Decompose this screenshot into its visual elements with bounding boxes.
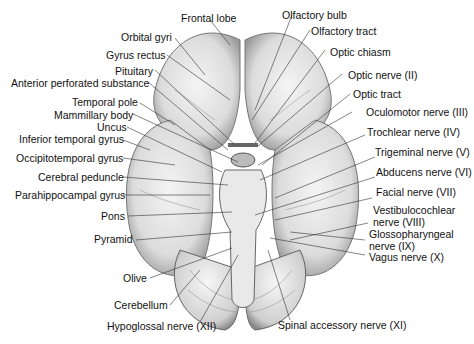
label-pyramid: Pyramid — [94, 234, 133, 245]
label-oculomotor-nerve: Oculomotor nerve (III) — [366, 107, 468, 118]
brain-inferior-view-diagram: Frontal lobe Orbital gyri Gyrus rectus P… — [0, 0, 474, 344]
label-vagus-nerve: Vagus nerve (X) — [369, 252, 444, 263]
label-optic-nerve: Optic nerve (II) — [348, 70, 417, 81]
label-facial-nerve: Facial nerve (VII) — [376, 187, 456, 198]
label-abducens-nerve: Abducens nerve (VI) — [376, 167, 472, 178]
label-pituitary: Pituitary — [115, 66, 153, 77]
label-gyrus-rectus: Gyrus rectus — [106, 50, 166, 61]
label-frontal-lobe: Frontal lobe — [181, 13, 236, 24]
label-trigeminal-nerve: Trigeminal nerve (V) — [375, 147, 470, 158]
label-olive: Olive — [123, 273, 147, 284]
label-olfactory-bulb: Olfactory bulb — [282, 10, 347, 21]
label-hypoglossal-nerve: Hypoglossal nerve (XII) — [107, 321, 216, 332]
label-parahippocampal-gyrus: Parahippocampal gyrus — [15, 190, 125, 201]
label-cerebellum: Cerebellum — [114, 300, 168, 311]
label-vestibulocochlear-nerve-line2: nerve (VIII) — [373, 217, 425, 228]
label-pons: Pons — [101, 211, 125, 222]
label-uncus: Uncus — [97, 122, 127, 133]
label-temporal-pole: Temporal pole — [72, 97, 138, 108]
label-inferior-temporal-gyrus: Inferior temporal gyrus — [19, 134, 124, 145]
label-trochlear-nerve: Trochlear nerve (IV) — [367, 127, 460, 138]
label-olfactory-tract: Olfactory tract — [311, 26, 376, 37]
label-vestibulocochlear-nerve: Vestibulocochlear — [373, 205, 455, 216]
label-spinal-accessory-nerve: Spinal accessory nerve (XI) — [278, 320, 406, 331]
label-glossopharyngeal-nerve: Glossopharyngeal — [369, 229, 454, 240]
label-mammillary-body: Mammillary body — [54, 110, 133, 121]
label-optic-tract: Optic tract — [353, 89, 401, 100]
label-optic-chiasm: Optic chiasm — [330, 47, 391, 58]
label-cerebral-peduncle: Cerebral peduncle — [38, 172, 124, 183]
label-anterior-perforated-substance: Anterior perforated substance — [11, 78, 149, 89]
label-orbital-gyri: Orbital gyri — [121, 32, 172, 43]
label-occipitotemporal-gyrus: Occipitotemporal gyrus — [16, 153, 123, 164]
